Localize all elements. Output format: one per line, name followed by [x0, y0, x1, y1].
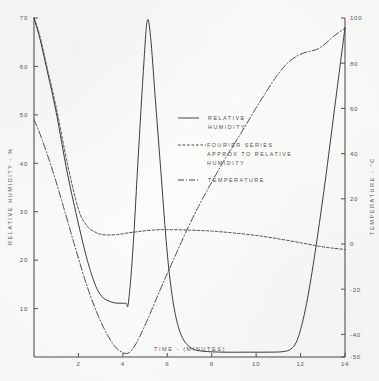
chart-legend: RELATIVE HUMIDITY FOURIER SERIES APPROX …	[178, 115, 292, 183]
y-tick-label-left: 10	[20, 305, 28, 312]
y-tick-label-left: 70	[20, 14, 28, 21]
chart-page: 10203040506070 -50-40-20020406080100 246…	[0, 0, 379, 381]
y-axis-left-title: RELATIVE HUMIDITY - %	[7, 147, 13, 245]
y-tick-label-right: 80	[350, 60, 358, 67]
legend-label-fourier-series-line2: APPROX TO RELATIVE	[207, 151, 292, 157]
legend-label-fourier-series-line3: HUMIDITY	[207, 160, 245, 166]
curve-fourier-series-approx-to-relative-humidity	[34, 18, 345, 249]
y-tick-label-right: 0	[350, 240, 354, 247]
y-tick-label-left: 20	[20, 256, 28, 263]
y-tick-label-right: 100	[350, 14, 362, 21]
y-tick-label-left: 30	[20, 208, 28, 215]
axes-frame	[34, 18, 345, 357]
x-tick-label: 10	[252, 360, 260, 367]
legend-label-relative-humidity-line1: RELATIVE	[208, 115, 246, 121]
x-tick-label: 2	[76, 360, 80, 367]
y-tick-label-right: -40	[350, 331, 361, 338]
x-tick-label: 14	[341, 360, 349, 367]
x-tick-label: 4	[121, 360, 125, 367]
curve-relative-humidity	[34, 18, 345, 352]
x-tick-label: 8	[210, 360, 214, 367]
legend-label-fourier-series-line1: FOURIER SERIES	[207, 142, 274, 148]
y-tick-label-right: -50	[350, 353, 361, 360]
x-tick-label: 12	[296, 360, 304, 367]
y-tick-label-right: 60	[350, 105, 358, 112]
y-axis-right-ticks: -50-40-20020406080100	[341, 14, 362, 360]
y-axis-left-ticks: 10203040506070	[20, 14, 38, 312]
y-tick-label-left: 40	[20, 160, 28, 167]
curve-temperature	[34, 28, 345, 353]
y-tick-label-left: 50	[20, 111, 28, 118]
legend-label-relative-humidity-line2: HUMIDITY	[208, 124, 246, 130]
humidity-temperature-chart: 10203040506070 -50-40-20020406080100 246…	[0, 0, 379, 381]
y-tick-label-right: -20	[350, 286, 361, 293]
data-curves	[34, 18, 345, 354]
x-tick-label: 6	[165, 360, 169, 367]
y-tick-label-left: 60	[20, 63, 28, 70]
legend-label-temperature-line1: TEMPERATURE	[208, 177, 265, 183]
y-tick-label-right: 20	[350, 195, 358, 202]
x-axis-ticks: 2468101214	[76, 353, 349, 367]
y-tick-label-right: 40	[350, 150, 358, 157]
y-axis-right-title: TEMPERATURE - °C	[369, 157, 375, 235]
